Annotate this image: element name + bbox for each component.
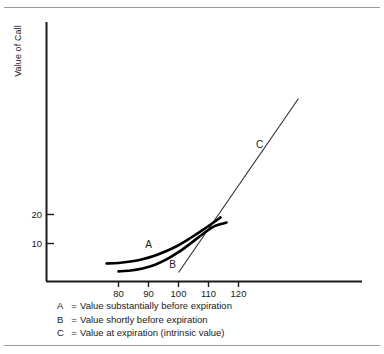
legend-desc-a: Value substantially before expiration [80,299,232,313]
legend-desc-c: Value at expiration (intrinsic value) [80,326,225,340]
x-tick-label-90: 90 [143,288,154,299]
legend-item-c: C = Value at expiration (intrinsic value… [57,326,232,340]
x-tick-label-110: 110 [201,288,216,299]
legend-item-a: A = Value substantially before expiratio… [57,299,232,313]
curve-label-b: B [169,259,176,270]
series-line-c [179,99,299,273]
y-tick-label-20: 20 [31,209,42,220]
legend: A = Value substantially before expiratio… [57,299,232,340]
curve-label-a: A [145,239,152,250]
legend-equals-c: = [68,326,80,340]
option-value-figure: Value of Call 20 10 80 90 100 110 120 A … [0,0,384,354]
legend-item-b: B = Value shortly before expiration [57,313,232,327]
series-curve-a [107,217,221,263]
legend-key-c: C [57,326,68,340]
legend-equals-b: = [68,313,80,327]
x-tick-label-100: 100 [171,288,187,299]
x-tick-label-80: 80 [113,288,124,299]
legend-equals-a: = [68,299,80,313]
legend-desc-b: Value shortly before expiration [80,313,208,327]
legend-key-b: B [57,313,68,327]
x-tick-label-120: 120 [231,288,247,299]
y-tick-label-10: 10 [31,238,42,249]
legend-key-a: A [57,299,68,313]
curve-label-c: C [256,139,263,150]
